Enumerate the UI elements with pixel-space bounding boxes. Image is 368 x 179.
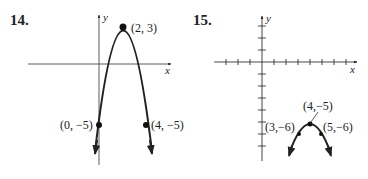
leader-line (311, 112, 318, 122)
point-label: (0, −5) (60, 118, 93, 132)
x-axis-label: x (349, 63, 355, 75)
x-axis-label: x (164, 64, 170, 76)
point-label: (4,−5) (303, 99, 333, 113)
vertex-point (120, 24, 127, 31)
point-label: (2, 3) (131, 21, 157, 35)
graph-15: x y (4,−5) (3,−6) (5,−6) (214, 12, 357, 161)
vertex-point (308, 122, 313, 127)
point (96, 122, 102, 128)
graphs: x y (2, 3) (0, −5) (4, −5) x y (0, 0, 368, 179)
parabola-curve (95, 31, 152, 153)
point-label: (4, −5) (151, 118, 184, 132)
point (297, 132, 301, 136)
point-label: (3,−6) (265, 120, 295, 134)
point-label: (5,−6) (323, 120, 353, 134)
y-axis-label: y (102, 11, 108, 23)
y-axis-label: y (265, 12, 271, 24)
graph-14: x y (2, 3) (0, −5) (4, −5) (28, 11, 184, 165)
point (143, 122, 149, 128)
